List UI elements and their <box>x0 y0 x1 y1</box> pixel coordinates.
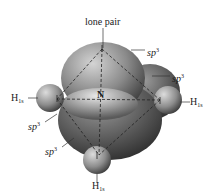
sp3-label-bottom-left: sp3 <box>45 144 57 157</box>
h1s-label-bottom: H1s <box>92 181 105 193</box>
sp3-label-left: sp3 <box>28 119 40 132</box>
sp3-label-right: sp3 <box>172 71 184 84</box>
hydrogen-bottom <box>83 146 111 174</box>
sp3-label-top-right: sp3 <box>147 45 159 58</box>
h1s-label-left: H1s <box>11 93 24 106</box>
h1s-label-right: H1s <box>190 97 203 110</box>
hydrogen-left <box>36 84 64 112</box>
lone-pair-label: lone pair <box>85 17 120 27</box>
ammonia-orbital-diagram <box>0 0 215 193</box>
nitrogen-label: N <box>97 90 104 100</box>
